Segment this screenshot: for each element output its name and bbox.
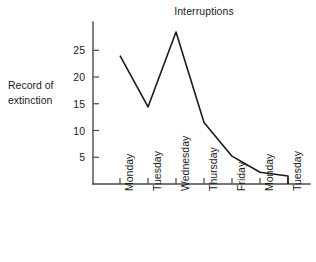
y-axis-tick-marks <box>93 50 99 157</box>
x-tick-label-2: Wednesday <box>180 136 191 191</box>
y-tick-label-20: 20 <box>59 72 85 82</box>
x-tick-label-3: Thursday <box>208 147 219 191</box>
x-tick-label-4: Friday <box>236 162 247 191</box>
y-tick-label-15: 15 <box>59 99 85 109</box>
chart-page: Interruptions Record of extinction 51015… <box>0 0 316 262</box>
y-tick-label-10: 10 <box>59 126 85 136</box>
x-tick-label-5: Monday <box>264 154 275 191</box>
x-tick-label-1: Tuesday <box>152 151 163 191</box>
line-chart-plot <box>0 0 316 262</box>
x-tick-label-6: Tuesday <box>292 151 303 191</box>
y-tick-label-25: 25 <box>59 45 85 55</box>
x-tick-label-0: Monday <box>124 154 135 191</box>
y-tick-label-5: 5 <box>59 152 85 162</box>
